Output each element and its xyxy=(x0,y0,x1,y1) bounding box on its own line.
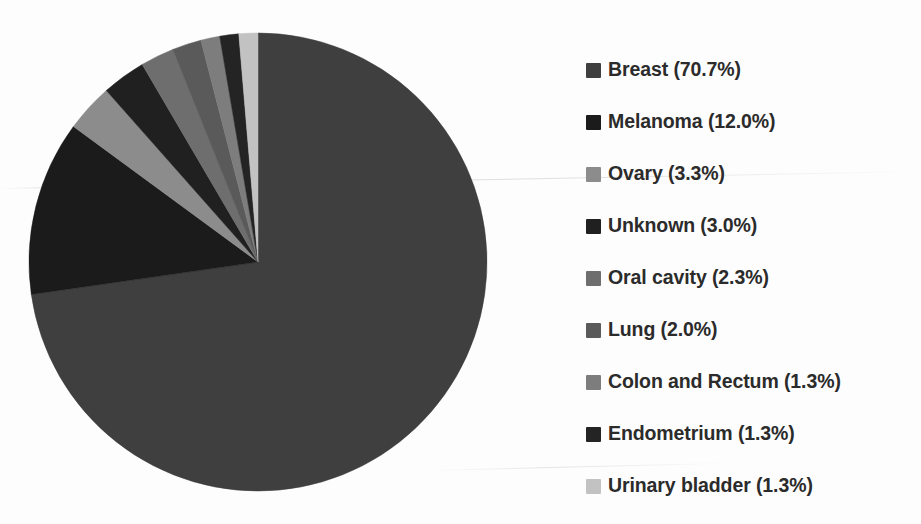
pie-chart-plot-area xyxy=(22,22,502,502)
legend-item-label: Colon and Rectum (1.3%) xyxy=(608,372,841,392)
legend-swatch-icon xyxy=(586,115,601,130)
legend-item: Oral cavity (2.3%) xyxy=(586,252,916,304)
legend-swatch-icon xyxy=(586,219,601,234)
legend-swatch-icon xyxy=(586,323,601,338)
pie-chart-figure: Breast (70.7%)Melanoma (12.0%)Ovary (3.3… xyxy=(0,0,921,524)
legend-item: Endometrium (1.3%) xyxy=(586,408,916,460)
legend-item: Urinary bladder (1.3%) xyxy=(586,460,916,512)
legend-item-label: Breast (70.7%) xyxy=(608,60,741,80)
legend-swatch-icon xyxy=(586,167,601,182)
chart-legend: Breast (70.7%)Melanoma (12.0%)Ovary (3.3… xyxy=(586,44,916,512)
legend-item: Unknown (3.0%) xyxy=(586,200,916,252)
legend-item: Melanoma (12.0%) xyxy=(586,96,916,148)
legend-item-label: Oral cavity (2.3%) xyxy=(608,268,769,288)
legend-item-label: Unknown (3.0%) xyxy=(608,216,757,236)
pie-chart-svg xyxy=(22,22,502,502)
legend-item: Colon and Rectum (1.3%) xyxy=(586,356,916,408)
legend-swatch-icon xyxy=(586,271,601,286)
legend-item-label: Endometrium (1.3%) xyxy=(608,424,795,444)
legend-item: Breast (70.7%) xyxy=(586,44,916,96)
legend-swatch-icon xyxy=(586,479,601,494)
legend-item: Lung (2.0%) xyxy=(586,304,916,356)
legend-swatch-icon xyxy=(586,375,601,390)
legend-swatch-icon xyxy=(586,63,601,78)
legend-item-label: Lung (2.0%) xyxy=(608,320,717,340)
legend-item-label: Ovary (3.3%) xyxy=(608,164,725,184)
legend-item-label: Melanoma (12.0%) xyxy=(608,112,775,132)
pie-slice-group xyxy=(29,33,487,491)
legend-item: Ovary (3.3%) xyxy=(586,148,916,200)
legend-item-label: Urinary bladder (1.3%) xyxy=(608,476,813,496)
legend-swatch-icon xyxy=(586,427,601,442)
